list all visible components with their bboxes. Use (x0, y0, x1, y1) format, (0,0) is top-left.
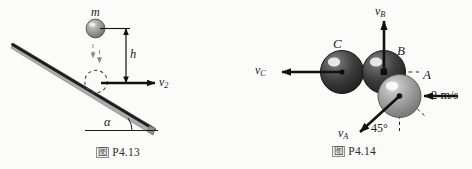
label-sphere-b: B (397, 44, 405, 57)
label-velocity-vc-subscript: C (260, 69, 265, 78)
label-velocity-va-subscript: A (343, 132, 348, 141)
caption-figure-glyph-left: 图 (96, 147, 109, 158)
label-angle-45: 45° (371, 122, 388, 134)
label-mass-m: m (91, 6, 100, 18)
caption-p4-14: 图P4.14 (236, 145, 472, 157)
label-velocity-v2-subscript: 2 (164, 81, 168, 90)
p4-14-drawing (236, 0, 472, 169)
label-velocity-v2: v2 (159, 76, 168, 90)
caption-p4-13: 图P4.13 (0, 146, 236, 158)
label-sphere-c: C (333, 37, 342, 50)
label-height-h: h (130, 48, 136, 61)
label-velocity-vc: vC (255, 64, 266, 78)
height-h-dimension (100, 29, 130, 84)
figure-p4-14: C B A vB vC vA 45° 2 m/s 图P4.14 (236, 0, 472, 169)
ball-impact-position (85, 70, 107, 92)
label-incoming-speed: 2 m/s (431, 89, 458, 102)
p4-13-drawing (0, 0, 236, 169)
fall-motion-indicator (93, 44, 100, 63)
figure-sheet: m h v2 α 图P4.13 (0, 0, 472, 169)
caption-text-left: P4.13 (112, 146, 140, 158)
caption-figure-glyph-right: 图 (332, 146, 345, 157)
label-velocity-vb: vB (375, 5, 385, 19)
figure-p4-13: m h v2 α 图P4.13 (0, 0, 236, 169)
label-velocity-va: vA (338, 127, 348, 141)
caption-text-right: P4.14 (348, 145, 376, 157)
label-velocity-vb-subscript: B (380, 10, 385, 19)
label-angle-alpha: α (104, 116, 111, 129)
label-sphere-a: A (423, 68, 431, 81)
